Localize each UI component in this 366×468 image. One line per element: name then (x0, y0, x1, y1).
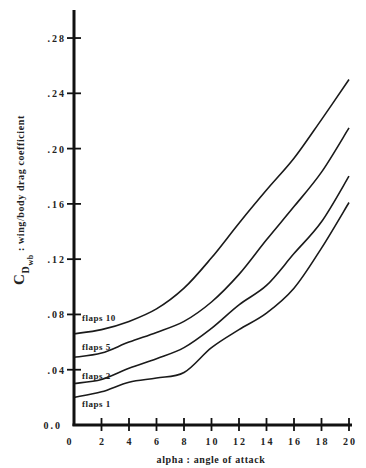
series-label-flaps-5: flaps 5 (82, 342, 111, 352)
y-axis-title-text: : wing/body drag coefficient (15, 115, 26, 254)
x-tick-label: 18 (316, 436, 330, 447)
series-label-flaps-1: flaps 1 (82, 399, 111, 409)
x-axis-ticks: 02468101214161820 (67, 418, 358, 447)
series-label-flaps-2: flaps 2 (82, 371, 111, 381)
drag-coefficient-chart: 0.0.04.08.12.16.20.24.28 024681012141618… (0, 0, 366, 468)
curve-flaps-1 (74, 203, 349, 398)
x-tick-label: 2 (99, 436, 106, 447)
x-axis-title: alpha : angle of attack (157, 454, 266, 465)
curve-flaps-2 (74, 176, 349, 383)
x-tick-label: 12 (233, 436, 247, 447)
series-curves (74, 80, 349, 398)
x-tick-label: 8 (182, 436, 189, 447)
y-axis-title: CDwb : wing/body drag coefficient (11, 115, 35, 285)
y-axis-title-main: C (11, 273, 27, 284)
x-tick-label: 10 (206, 436, 220, 447)
x-tick-label: 16 (288, 436, 302, 447)
curve-flaps-10 (74, 80, 349, 334)
y-tick-label: .20 (48, 144, 67, 155)
x-tick-label: 14 (261, 436, 275, 447)
series-label-flaps-10: flaps 10 (82, 313, 116, 323)
x-tick-label: 0 (67, 436, 74, 447)
x-tick-label: 6 (154, 436, 161, 447)
y-tick-label: .28 (48, 33, 67, 44)
x-tick-label: 4 (127, 436, 134, 447)
y-tick-label: .16 (48, 199, 67, 210)
y-tick-label: .04 (48, 365, 67, 376)
y-tick-label: 0.0 (44, 420, 63, 431)
y-tick-label: .08 (48, 309, 67, 320)
y-axis-title-subsub: wb (26, 254, 35, 265)
svg-text:CDwb : wing/body drag coeffici: CDwb : wing/body drag coefficient (11, 115, 35, 285)
x-tick-label: 20 (343, 436, 357, 447)
y-axis-title-sub: D (20, 266, 31, 274)
y-tick-label: .12 (48, 254, 67, 265)
y-tick-label: .24 (48, 88, 67, 99)
